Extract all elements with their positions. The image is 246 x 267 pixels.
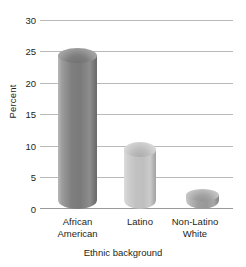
- y-tick-label-25: 25: [10, 47, 36, 57]
- bar-cap: [124, 142, 156, 157]
- bar-non-latino-white[interactable]: [186, 195, 219, 209]
- bar-body: [58, 55, 97, 209]
- y-tick-label-30: 30: [10, 16, 36, 26]
- bar-chart: Percent 30 25 20 15 10 5 0 Af: [0, 0, 246, 267]
- y-tick-label-0: 0: [10, 205, 36, 215]
- bar-latino[interactable]: [124, 149, 156, 209]
- x-tick-label-line-2: American: [28, 228, 127, 240]
- bar-cap: [58, 48, 97, 63]
- gridline-30: [40, 20, 233, 21]
- x-tick-label-line-1: Non-Latino: [152, 216, 238, 228]
- x-tick-label-line-2: White: [152, 228, 238, 240]
- x-axis-title: Ethnic background: [0, 247, 246, 258]
- bar-body: [124, 149, 156, 209]
- x-tick-label-non-latino-white: Non-Latino White: [152, 216, 238, 239]
- bar-african-american[interactable]: [58, 55, 97, 209]
- y-tick-label-20: 20: [10, 79, 36, 89]
- y-tick-label-10: 10: [10, 142, 36, 152]
- plot-area: [40, 20, 233, 209]
- bar-cap: [186, 189, 219, 201]
- y-tick-label-5: 5: [10, 173, 36, 183]
- y-axis-title: Percent: [7, 57, 18, 147]
- y-tick-label-15: 15: [10, 110, 36, 120]
